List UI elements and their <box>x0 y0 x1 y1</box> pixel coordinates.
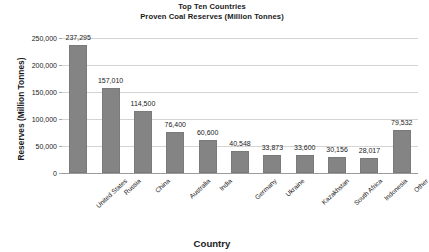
x-axis-category-label: Kazakhstan <box>320 177 350 206</box>
x-axis-category-label: Australia <box>188 177 212 200</box>
y-axis-tick-label: 0 <box>53 170 57 177</box>
bar <box>102 88 120 173</box>
bar-value-label: 33,600 <box>294 144 315 151</box>
x-axis-category-label: China <box>154 177 171 194</box>
bar <box>231 151 249 173</box>
x-axis-line <box>62 173 418 174</box>
y-axis-tick <box>59 38 62 39</box>
bar <box>166 132 184 173</box>
y-axis-tick-label: 250,000 <box>32 35 57 42</box>
y-axis-tick-label: 150,000 <box>32 89 57 96</box>
plot-area: 050,000100,000150,000200,000250,000237,2… <box>62 38 418 173</box>
y-axis-tick <box>59 173 62 174</box>
bar <box>199 140 217 173</box>
y-axis-tick <box>59 119 62 120</box>
x-axis-title: Country <box>0 238 424 249</box>
bar-value-label: 33,873 <box>262 144 283 151</box>
bar <box>360 158 378 173</box>
x-axis-category-label: United States <box>95 177 129 209</box>
x-axis-category-label: Germany <box>253 177 278 201</box>
x-axis-category-label: India <box>217 177 232 192</box>
x-axis-category-label: Ukraine <box>284 177 305 198</box>
y-axis-tick <box>59 146 62 147</box>
gridline <box>62 65 418 66</box>
bar <box>69 45 87 173</box>
bar-value-label: 79,532 <box>391 119 412 126</box>
y-axis-tick-label: 50,000 <box>36 143 57 150</box>
x-axis-category-label: Indonesia <box>383 177 409 202</box>
bar-value-label: 30,156 <box>326 146 347 153</box>
bar-value-label: 40,548 <box>229 140 250 147</box>
bar <box>296 155 314 173</box>
bar-value-label: 157,010 <box>98 77 123 84</box>
chart-title-line-1: Top Ten Countries <box>0 2 424 12</box>
bar <box>134 111 152 173</box>
bar-value-label: 60,600 <box>197 129 218 136</box>
chart-title: Top Ten Countries Proven Coal Reserves (… <box>0 2 424 22</box>
bar <box>328 157 346 173</box>
y-axis-tick-label: 100,000 <box>32 116 57 123</box>
y-axis-tick <box>59 92 62 93</box>
x-axis-category-label: Other <box>412 177 429 193</box>
bar-value-label: 76,400 <box>165 121 186 128</box>
y-axis-tick <box>59 65 62 66</box>
bar <box>263 155 281 173</box>
y-axis-title: Reserves (Million Tonnes) <box>16 34 26 184</box>
bar-value-label: 28,017 <box>359 147 380 154</box>
x-axis-category-label: South Africa <box>353 177 384 206</box>
chart-title-line-2: Proven Coal Reserves (Million Tonnes) <box>0 12 424 22</box>
bar-value-label: 114,500 <box>131 100 156 107</box>
bar-value-label: 237,295 <box>66 34 91 41</box>
gridline <box>62 38 418 39</box>
bar <box>393 130 411 173</box>
y-axis-tick-label: 200,000 <box>32 62 57 69</box>
